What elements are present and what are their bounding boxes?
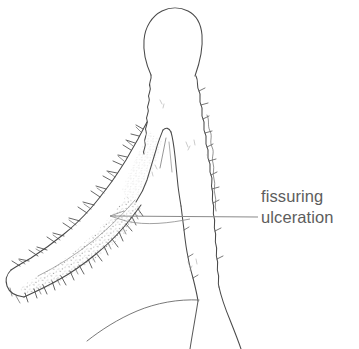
annotation-label-line-1: fissuring bbox=[261, 186, 334, 207]
tissue-flecks bbox=[152, 100, 209, 270]
figure-root: fissuring ulceration bbox=[0, 0, 359, 349]
outer-right-contour bbox=[207, 115, 216, 211]
right-wall bbox=[196, 76, 241, 349]
villus-dome bbox=[144, 8, 202, 76]
annotation-label-line-2: ulceration bbox=[261, 207, 334, 228]
basal-curve bbox=[87, 300, 199, 341]
center-stalk bbox=[181, 206, 198, 349]
ulceration-spikes-upper bbox=[12, 125, 143, 266]
annotation-label: fissuring ulceration bbox=[261, 186, 334, 228]
illustration-canvas bbox=[0, 0, 359, 349]
